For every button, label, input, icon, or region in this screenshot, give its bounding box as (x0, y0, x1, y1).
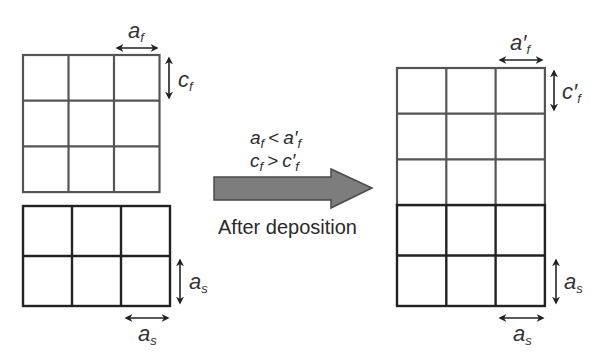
lattice-outline (23, 55, 160, 192)
right-film-c-dimension: c′f (554, 71, 582, 110)
relation-a-lattice: af<a′f (250, 127, 302, 151)
right-substrate-lattice (397, 205, 545, 306)
left-substrate-lattice (23, 206, 170, 306)
right-substrate-vertical-dimension: as (556, 260, 583, 303)
left-substrate-horizontal-dimension: as (126, 318, 168, 348)
right-film-c-label: c′f (562, 79, 582, 106)
right-substrate-vertical-label: as (564, 269, 583, 296)
left-film-c-dimension: cf (169, 58, 194, 98)
left-substrate-vertical-label: as (189, 269, 208, 296)
left-substrate-horizontal-label: as (138, 321, 157, 348)
right-film-a-dimension: a′f (500, 30, 542, 60)
right-film-a-label: a′f (510, 30, 531, 57)
process-caption: After deposition (218, 216, 357, 238)
left-substrate-vertical-dimension: as (180, 260, 208, 303)
left-film-lattice (23, 55, 160, 192)
lattice-outline (397, 68, 545, 205)
left-film-c-label: cf (178, 67, 194, 94)
right-substrate-horizontal-label: as (513, 321, 532, 348)
right-substrate-horizontal-dimension: as (500, 318, 543, 348)
epitaxial-strain-diagram: af cf as as af<a′f cf>c′f After depositi… (0, 0, 606, 359)
right-film-lattice (397, 68, 545, 205)
relation-c-lattice: cf>c′f (250, 150, 300, 174)
left-film-a-dimension: af (117, 18, 157, 48)
left-film-a-label: af (128, 18, 145, 45)
process-arrow-icon (214, 169, 372, 208)
